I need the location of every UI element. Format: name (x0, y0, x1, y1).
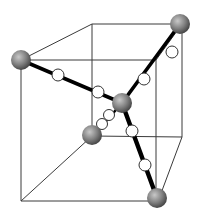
large-atoms (11, 14, 190, 208)
bridging-atom (126, 125, 138, 137)
bridging-atom (92, 86, 104, 98)
atom-center (112, 93, 132, 113)
bridging-atom (104, 110, 115, 121)
cube-edge-bottom-left-depth (21, 136, 92, 201)
bond-center-to-front-bottom-right (122, 103, 157, 198)
atom-back-bottom-left (82, 125, 102, 145)
atom-front-bottom-right (147, 188, 167, 208)
bridging-atom (139, 159, 151, 171)
bond-center-to-front-top-left (21, 60, 122, 103)
bridging-atom (52, 69, 64, 81)
bridging-atom (138, 73, 150, 85)
cube-edge-bottom-right-depth (160, 137, 182, 196)
bridging-atom (166, 46, 178, 58)
atom-back-top-right (170, 14, 190, 34)
atom-front-top-left (11, 50, 31, 70)
cube-edge-back-bottom (92, 136, 182, 137)
cube-edge-top-left-depth (21, 24, 92, 60)
tetrahedral-cube-diagram (0, 0, 220, 223)
cube (21, 24, 182, 201)
bond-center-to-back-top-right (122, 24, 180, 103)
